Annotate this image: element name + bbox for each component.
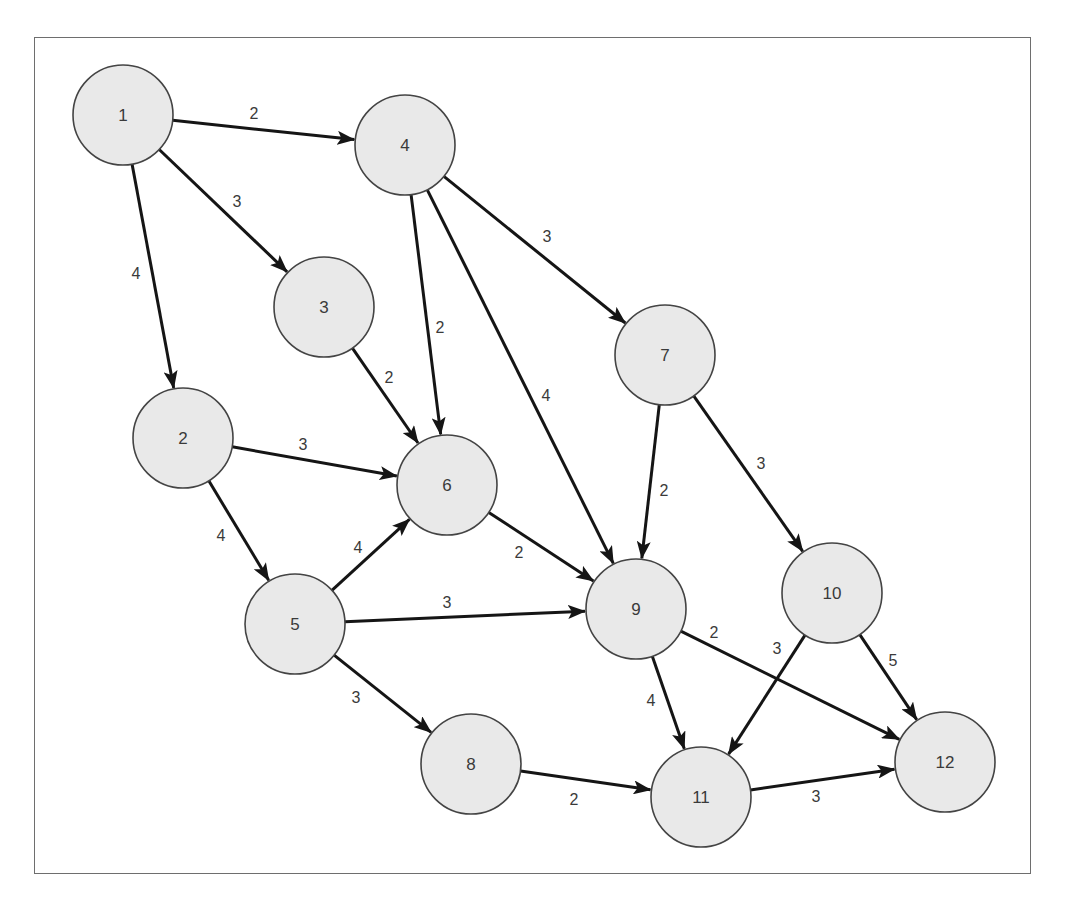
edge-labels-layer: 234243234433223423523: [132, 105, 898, 808]
edge-weight-label: 2: [515, 544, 524, 561]
node-label: 10: [823, 584, 842, 603]
node-6: 6: [397, 435, 497, 535]
edge-5-to-9: [345, 611, 585, 622]
edge-8-to-11: [521, 771, 651, 790]
edge-10-to-12: [860, 635, 917, 720]
node-12: 12: [895, 712, 995, 812]
node-label: 6: [442, 476, 451, 495]
edge-1-to-3: [159, 150, 287, 272]
node-2: 2: [133, 388, 233, 488]
edge-weight-label: 4: [647, 692, 656, 709]
node-label: 4: [400, 136, 409, 155]
edge-weight-label: 2: [710, 624, 719, 641]
node-label: 7: [660, 346, 669, 365]
node-label: 11: [692, 788, 710, 807]
edge-5-to-6: [332, 519, 410, 590]
edge-weight-label: 3: [812, 788, 821, 805]
edge-weight-label: 2: [660, 482, 669, 499]
edge-2-to-6: [232, 447, 397, 476]
edge-weight-label: 3: [773, 640, 782, 657]
edge-weight-label: 3: [233, 193, 242, 210]
edge-weight-label: 4: [132, 265, 141, 282]
node-label: 9: [631, 600, 640, 619]
edge-weight-label: 2: [436, 319, 445, 336]
edge-weight-label: 3: [757, 455, 766, 472]
nodes-layer: 123456789101112: [73, 65, 995, 847]
edge-weight-label: 3: [443, 594, 452, 611]
edge-9-to-12: [681, 631, 900, 739]
edge-weight-label: 2: [385, 369, 394, 386]
edge-weight-label: 5: [889, 652, 898, 669]
edge-9-to-11: [652, 656, 684, 749]
node-1: 1: [73, 65, 173, 165]
node-label: 12: [936, 753, 955, 772]
node-4: 4: [355, 95, 455, 195]
edge-weight-label: 2: [570, 791, 579, 808]
edge-1-to-4: [173, 120, 355, 139]
edge-7-to-10: [694, 396, 803, 551]
edge-weight-label: 4: [217, 527, 226, 544]
edge-weight-label: 3: [299, 436, 308, 453]
edge-5-to-8: [334, 655, 431, 732]
edge-4-to-7: [444, 176, 625, 323]
edge-weight-label: 4: [354, 539, 363, 556]
edge-10-to-11: [729, 635, 805, 754]
edge-11-to-12: [751, 769, 895, 790]
node-label: 8: [466, 755, 475, 774]
edge-3-to-6: [352, 348, 418, 443]
node-8: 8: [421, 714, 521, 814]
network-diagram: 234243234433223423523 123456789101112: [0, 0, 1067, 907]
node-3: 3: [274, 257, 374, 357]
edge-weight-label: 3: [352, 689, 361, 706]
node-11: 11: [651, 747, 751, 847]
node-5: 5: [245, 574, 345, 674]
edge-weight-label: 2: [250, 105, 259, 122]
node-label: 2: [178, 429, 187, 448]
node-7: 7: [615, 305, 715, 405]
edge-weight-label: 4: [542, 387, 551, 404]
node-label: 3: [319, 298, 328, 317]
edge-7-to-9: [642, 405, 660, 559]
node-10: 10: [782, 543, 882, 643]
edge-4-to-6: [411, 195, 441, 435]
node-9: 9: [586, 559, 686, 659]
node-label: 1: [118, 106, 127, 125]
node-label: 5: [290, 615, 299, 634]
edge-weight-label: 3: [543, 228, 552, 245]
edges-layer: [132, 120, 917, 790]
edge-6-to-9: [489, 512, 594, 581]
